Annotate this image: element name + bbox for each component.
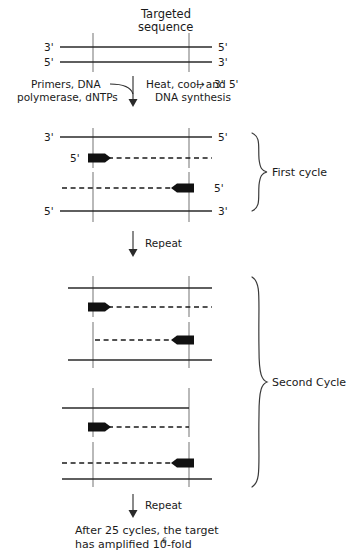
reaction-down-arrow xyxy=(129,76,138,107)
fc-strand-2-left-prime: 5' xyxy=(70,152,80,164)
first-cycle-brace: First cycle xyxy=(252,133,327,211)
second-cycle-label: Second Cycle xyxy=(272,376,346,389)
reagents-line-2: polymerase, dNTPs xyxy=(17,91,118,103)
pcr-diagram-svg: Targeted sequence 3' 5' 5' 3' Primers, D… xyxy=(0,0,349,557)
reaction-arrow-head xyxy=(129,99,138,107)
brace-shape-first-cycle xyxy=(252,133,267,211)
fc-strand-4-left-prime: 5' xyxy=(44,205,54,217)
sc-g1-strand-3-primer-right xyxy=(171,336,194,345)
fc-strand-1-right-prime: 5' xyxy=(218,131,228,143)
second-cycle-g1-duplex-a xyxy=(68,276,212,317)
conditions-arrow-glyph: → xyxy=(196,78,205,90)
reagents-line-1: Primers, DNA xyxy=(31,78,101,90)
repeat-2-label: Repeat xyxy=(145,499,182,511)
template-top-left-prime: 3' xyxy=(44,41,54,53)
conclusion-line-2-post: -fold xyxy=(167,538,192,551)
repeat-step-1: Repeat xyxy=(129,231,182,257)
repeat-2-arrow-head xyxy=(129,510,138,518)
conditions-line-1-post: 3' xyxy=(214,78,224,90)
reaction-step-annotation: Primers, DNA polymerase, dNTPs Heat, coo… xyxy=(17,76,238,107)
fc-strand-4-right-prime: 3' xyxy=(218,205,228,217)
fc-strand-3-right-prime: 5' xyxy=(214,182,224,194)
conditions-line-1-pre: Heat, cool, and 5' xyxy=(146,78,238,90)
fc-strand-3-primer-right xyxy=(171,184,194,193)
conditions-line-2: DNA synthesis xyxy=(155,91,231,103)
pcr-diagram-figure: Targeted sequence 3' 5' 5' 3' Primers, D… xyxy=(0,0,349,557)
repeat-step-2: Repeat xyxy=(129,494,182,518)
template-top-right-prime: 5' xyxy=(218,41,228,53)
fc-strand-1-left-prime: 3' xyxy=(44,131,54,143)
brace-shape-second-cycle xyxy=(252,277,267,487)
repeat-1-label: Repeat xyxy=(145,237,182,249)
sc-g2-strand-2-primer-left xyxy=(88,423,111,432)
template-bottom-left-prime: 5' xyxy=(44,56,54,68)
template-bottom-right-prime: 3' xyxy=(218,56,228,68)
first-cycle-duplex-a: 3' 5' 5' xyxy=(44,128,228,168)
conditions-text: Heat, cool, and 5' → 3' DNA synthesis xyxy=(146,78,238,103)
second-cycle-g2-duplex-a xyxy=(62,388,189,437)
second-cycle-g2-duplex-b xyxy=(62,442,212,487)
second-cycle-brace: Second Cycle xyxy=(252,277,346,487)
first-cycle-duplex-b: 5' 5' 3' xyxy=(44,172,228,222)
template-duplex: 3' 5' 5' 3' xyxy=(44,33,228,72)
second-cycle-group: Second Cycle xyxy=(62,276,346,487)
second-cycle-g1-duplex-b xyxy=(68,322,212,368)
first-cycle-group: 3' 5' 5' 5' 5' 3' First cycle xyxy=(44,128,327,222)
sc-g1-strand-2-primer-left xyxy=(88,303,111,312)
title-line-2: sequence xyxy=(138,20,193,34)
sc-g2-strand-3-primer-right xyxy=(171,459,194,468)
conclusion-caption: After 25 cycles, the target has amplifie… xyxy=(75,524,219,551)
fc-strand-2-primer-left xyxy=(88,154,111,163)
repeat-1-arrow-head xyxy=(129,249,138,257)
conclusion-line-1: After 25 cycles, the target xyxy=(75,524,219,537)
title-line-1: Targeted xyxy=(140,7,191,21)
first-cycle-label: First cycle xyxy=(272,166,327,179)
targeted-sequence-title: Targeted sequence xyxy=(138,7,193,34)
conclusion-line-2-pre: has amplified 10 xyxy=(75,538,167,551)
